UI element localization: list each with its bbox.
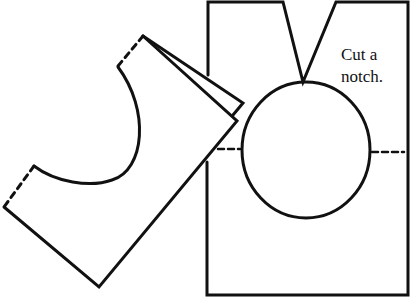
notch-annotation: Cut a notch. <box>341 44 383 88</box>
diagram-canvas: Cut a notch. <box>0 0 415 305</box>
annotation-line-1: Cut a <box>341 44 383 66</box>
annotation-line-2: notch. <box>341 66 383 88</box>
